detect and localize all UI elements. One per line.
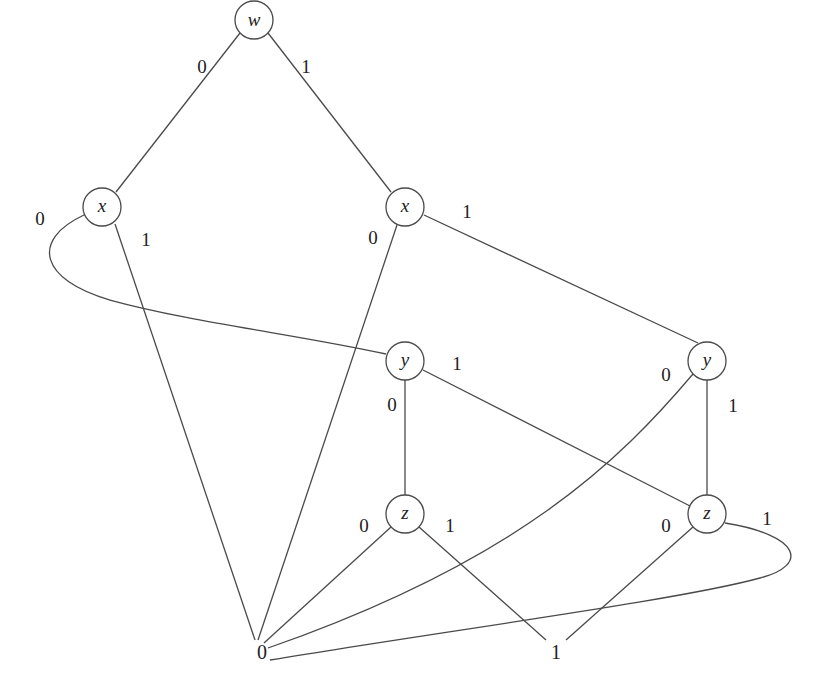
edge-label-z-mid-0: 0 [359, 515, 369, 536]
edge-label-y-mid-1: 1 [452, 353, 462, 374]
edge-z-mid-one [419, 527, 546, 640]
terminal-zero: 0 [257, 641, 267, 663]
svg-text:w: w [248, 9, 261, 30]
svg-text:y: y [701, 349, 712, 370]
edge-y-right-zero [268, 374, 693, 648]
bdd-diagram: 0 1 0 1 0 1 0 1 0 1 0 1 0 1 w x x y y z [0, 0, 821, 692]
node-x-right: x [386, 188, 424, 226]
edge-x-left-y-mid [50, 215, 386, 354]
edge-label-z-right-1: 1 [762, 508, 772, 529]
edge-label-x-left-1: 1 [141, 229, 151, 250]
svg-text:z: z [400, 502, 409, 523]
svg-text:x: x [400, 195, 410, 216]
edge-w-x-left [116, 33, 240, 192]
svg-text:y: y [399, 349, 410, 370]
node-w: w [235, 1, 273, 39]
edge-label-z-right-0: 0 [661, 515, 671, 536]
edge-label-z-mid-1: 1 [445, 515, 455, 536]
edge-x-right-y-right [424, 215, 698, 343]
edges [50, 33, 791, 660]
edge-labels: 0 1 0 1 0 1 0 1 0 1 0 1 0 1 [35, 56, 772, 536]
svg-text:x: x [97, 195, 107, 216]
edge-label-y-right-0: 0 [661, 364, 671, 385]
node-x-left: x [83, 188, 121, 226]
edge-label-x-right-0: 0 [368, 227, 378, 248]
edge-w-x-right [268, 33, 391, 192]
edge-x-right-zero [258, 225, 397, 640]
node-z-mid: z [386, 495, 424, 533]
edge-label-w-0: 0 [197, 56, 207, 77]
edge-label-w-1: 1 [301, 56, 311, 77]
edge-y-mid-z-right [423, 370, 690, 506]
node-y-mid: y [386, 342, 424, 380]
terminal-one: 1 [551, 641, 561, 663]
edge-label-x-left-0: 0 [35, 208, 45, 229]
node-z-right: z [688, 495, 726, 533]
edge-label-y-mid-0: 0 [387, 394, 397, 415]
edge-x-left-zero [115, 224, 255, 640]
edge-z-right-zero [270, 523, 791, 660]
svg-text:z: z [702, 502, 711, 523]
edge-label-y-right-1: 1 [728, 395, 738, 416]
node-y-right: y [688, 342, 726, 380]
edge-z-right-one [566, 527, 693, 640]
edge-label-x-right-1: 1 [462, 201, 472, 222]
